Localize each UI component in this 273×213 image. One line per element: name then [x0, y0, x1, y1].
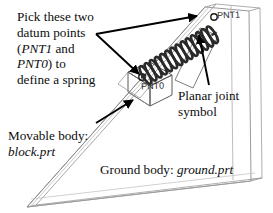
datum-point-label-pnt1: PNT1 [217, 9, 241, 20]
callout-pick-line-5: define a spring [17, 72, 95, 88]
callout-pick-line-4: PNT0) to [17, 56, 95, 72]
callout-planar-line-2: symbol [178, 104, 239, 120]
callout-ground-body: Ground body: ground.prt [100, 162, 233, 178]
arrow-to-pnt1 [96, 16, 197, 34]
ground-body-part-name: ground.prt [177, 162, 233, 177]
callout-planar-joint-symbol: Planar joint symbol [178, 88, 239, 120]
arrow-to-pnt0 [96, 34, 139, 74]
datum-name-pnt0: PNT0 [17, 56, 48, 71]
movable-body-part-name: block.prt [8, 144, 88, 160]
mechanism-figure: Pick these two datum points (PNT1 and PN… [0, 0, 273, 213]
arrow-to-movable-block [96, 100, 133, 123]
callout-pick-datum-points: Pick these two datum points (PNT1 and PN… [17, 9, 95, 88]
conjunction-and: and [52, 41, 74, 56]
datum-name-pnt1: PNT1 [21, 41, 52, 56]
callout-planar-line-1: Planar joint [178, 88, 239, 104]
datum-point-label-pnt0: PNT0 [141, 80, 165, 91]
arrow-to-planar-joint [199, 35, 209, 85]
paren-close-to: ) to [48, 56, 66, 71]
callout-movable-body: Movable body: block.prt [8, 128, 88, 160]
movable-body-label: Movable body: [8, 128, 88, 144]
callout-pick-line-3: (PNT1 and [17, 41, 95, 57]
ground-body-label: Ground body: [100, 162, 177, 177]
callout-pick-line-2: datum points [17, 25, 95, 41]
callout-pick-line-1: Pick these two [17, 9, 95, 25]
